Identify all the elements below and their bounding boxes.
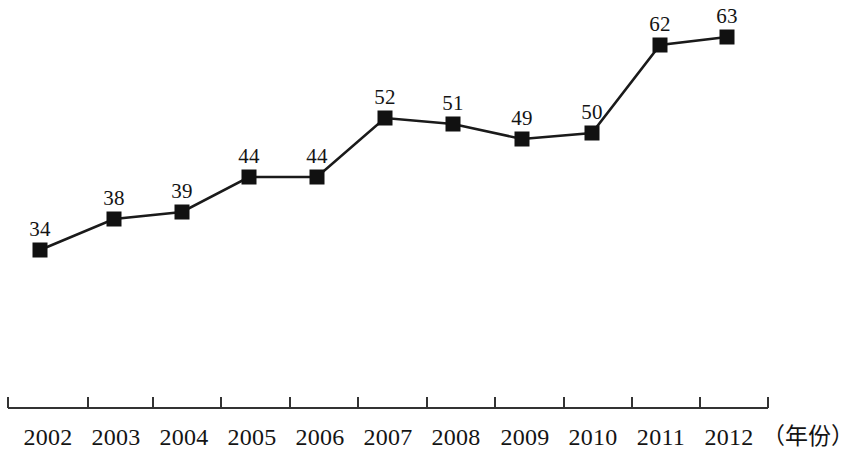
x-axis (8, 397, 768, 408)
data-point-value-label: 62 (649, 14, 670, 35)
data-point-value-label: 38 (103, 188, 124, 209)
data-point-value-label: 44 (306, 146, 327, 167)
x-axis-tick-label-2012: 2012 (704, 425, 753, 449)
series-markers (33, 30, 735, 258)
data-point-value-label: 51 (442, 93, 463, 114)
x-axis-tick-label-2004: 2004 (159, 425, 208, 449)
data-point-value-label: 49 (511, 108, 532, 129)
data-point-marker (446, 117, 461, 132)
data-point-value-label: 63 (716, 6, 737, 27)
x-axis-tick-label-2002: 2002 (23, 425, 72, 449)
x-axis-tick-label-2007: 2007 (363, 425, 412, 449)
data-point-value-label: 50 (581, 102, 602, 123)
data-point-marker (378, 111, 393, 126)
data-point-marker (515, 132, 530, 147)
data-series (33, 30, 735, 258)
series-line (40, 37, 727, 250)
x-axis-tick-label-2009: 2009 (500, 425, 549, 449)
data-point-marker (175, 205, 190, 220)
data-point-marker (242, 170, 257, 185)
data-point-marker (585, 126, 600, 141)
data-point-marker (107, 212, 122, 227)
data-point-marker (720, 30, 735, 45)
x-axis-tick-label-2011: 2011 (637, 425, 685, 449)
x-axis-tick-label-2008: 2008 (431, 425, 480, 449)
data-point-value-label: 34 (29, 219, 50, 240)
data-point-marker (310, 170, 325, 185)
x-axis-tick-label-2010: 2010 (568, 425, 617, 449)
x-axis-unit-label: （年份） (762, 425, 843, 448)
data-point-marker (653, 38, 668, 53)
data-point-value-label: 39 (171, 181, 192, 202)
data-point-value-label: 44 (238, 146, 259, 167)
data-point-marker (33, 243, 48, 258)
x-axis-tick-label-2005: 2005 (227, 425, 276, 449)
x-axis-ticks (8, 397, 768, 408)
data-point-value-label: 52 (374, 87, 395, 108)
x-axis-tick-label-2003: 2003 (91, 425, 140, 449)
x-axis-tick-label-2006: 2006 (295, 425, 344, 449)
